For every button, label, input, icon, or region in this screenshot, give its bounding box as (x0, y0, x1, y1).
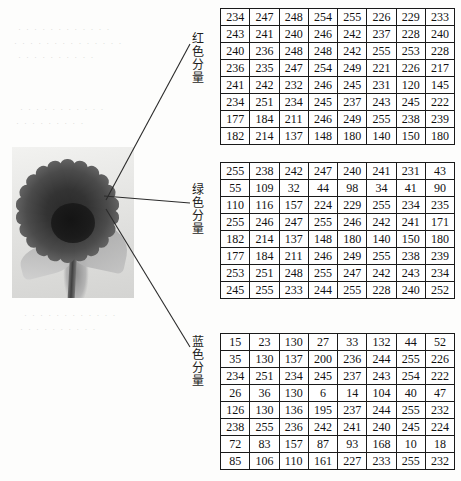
matrix-cell: 233 (279, 282, 308, 299)
matrix-cell: 255 (250, 282, 279, 299)
matrix-cell: 228 (367, 282, 396, 299)
matrix-cell: 237 (338, 94, 367, 111)
matrix-cell: 200 (308, 351, 337, 368)
matrix-cell: 255 (308, 214, 337, 231)
matrix-cell: 222 (425, 94, 454, 111)
matrix-cell: 239 (425, 111, 454, 128)
matrix-cell: 109 (250, 180, 279, 197)
matrix-cell: 248 (279, 43, 308, 60)
ghost-text-line: · · · · · · · · · · · · (24, 310, 117, 319)
matrix-cell: 240 (425, 26, 454, 43)
matrix-cell: 171 (425, 214, 454, 231)
matrix-cell: 23 (250, 334, 279, 351)
matrix-cell: 85 (221, 453, 250, 470)
matrix-cell: 247 (279, 214, 308, 231)
matrix-cell: 232 (279, 77, 308, 94)
matrix-row: 234251234245237243254222 (221, 368, 455, 385)
matrix-cell: 234 (221, 9, 250, 26)
matrix-cell: 10 (396, 436, 425, 453)
matrix-cell: 249 (338, 248, 367, 265)
matrix-row: 243241240246242237228240 (221, 26, 455, 43)
figure-page: · · · · · · · · · · · · · · · · · · · · … (0, 0, 461, 481)
matrix-cell: 180 (425, 231, 454, 248)
matrix-cell: 248 (308, 43, 337, 60)
matrix-cell: 177 (221, 248, 250, 265)
matrix-cell: 245 (221, 282, 250, 299)
matrix-cell: 130 (279, 334, 308, 351)
matrix-cell: 228 (425, 43, 454, 60)
matrix-cell: 150 (396, 231, 425, 248)
matrix-cell: 238 (221, 419, 250, 436)
matrix-cell: 245 (396, 419, 425, 436)
matrix-row: 182214137148180140150180 (221, 231, 455, 248)
matrix-cell: 229 (338, 197, 367, 214)
sunflower-photo (12, 147, 134, 298)
matrix-cell: 36 (250, 385, 279, 402)
matrix-cell: 241 (338, 419, 367, 436)
matrix-cell: 120 (396, 77, 425, 94)
matrix-cell: 242 (250, 77, 279, 94)
matrix-cell: 253 (396, 43, 425, 60)
matrix-cell: 184 (250, 111, 279, 128)
matrix-cell: 236 (221, 60, 250, 77)
blue-component-matrix: 1523130273313244523513013720023624425522… (220, 333, 455, 470)
matrix-row: 177184211246249255238239 (221, 111, 455, 128)
matrix-cell: 52 (425, 334, 454, 351)
matrix-cell: 238 (250, 163, 279, 180)
matrix-cell: 233 (425, 9, 454, 26)
matrix-cell: 254 (308, 9, 337, 26)
ghost-text-line: · · · · · · · · · · (18, 52, 95, 61)
matrix-cell: 253 (221, 265, 250, 282)
matrix-cell: 242 (308, 419, 337, 436)
matrix-cell: 236 (338, 351, 367, 368)
matrix-row: 241242232246245231120145 (221, 77, 455, 94)
matrix-cell: 232 (425, 402, 454, 419)
matrix-cell: 104 (367, 385, 396, 402)
matrix-row: 238255236242241240245224 (221, 419, 455, 436)
red-component-matrix: 2342472482542552262292332432412402462422… (220, 8, 455, 145)
matrix-cell: 110 (221, 197, 250, 214)
green-component-matrix: 2552382422472402412314355109324498344190… (220, 162, 455, 299)
ghost-text-line: · · · · · · · · · · · (20, 104, 105, 113)
matrix-cell: 251 (250, 368, 279, 385)
matrix-row: 236235247254249221226217 (221, 60, 455, 77)
matrix-row: 245255233244255228240252 (221, 282, 455, 299)
matrix-cell: 106 (250, 453, 279, 470)
matrix-cell: 161 (308, 453, 337, 470)
matrix-cell: 35 (221, 351, 250, 368)
matrix-cell: 249 (338, 60, 367, 77)
matrix-cell: 238 (396, 111, 425, 128)
matrix-cell: 255 (338, 282, 367, 299)
matrix-cell: 242 (338, 26, 367, 43)
matrix-cell: 245 (338, 77, 367, 94)
matrix-cell: 240 (396, 282, 425, 299)
matrix-cell: 242 (279, 163, 308, 180)
label-red-component: 红 色 分 量 (190, 33, 206, 85)
matrix-cell: 136 (279, 402, 308, 419)
matrix-cell: 214 (250, 128, 279, 145)
matrix-cell: 226 (367, 9, 396, 26)
matrix-row: 110116157224229255234235 (221, 197, 455, 214)
matrix-cell: 247 (250, 9, 279, 26)
matrix-cell: 32 (279, 180, 308, 197)
matrix-row: 126130136195237244255232 (221, 402, 455, 419)
matrix-cell: 240 (338, 163, 367, 180)
matrix-cell: 243 (396, 265, 425, 282)
matrix-row: 85106110161227233255232 (221, 453, 455, 470)
matrix-cell: 116 (250, 197, 279, 214)
matrix-cell: 246 (338, 214, 367, 231)
matrix-cell: 233 (367, 453, 396, 470)
matrix-cell: 227 (338, 453, 367, 470)
matrix-cell: 245 (308, 368, 337, 385)
matrix-cell: 246 (308, 26, 337, 43)
matrix-cell: 18 (425, 436, 454, 453)
matrix-cell: 47 (425, 385, 454, 402)
matrix-cell: 83 (250, 436, 279, 453)
matrix-cell: 211 (279, 248, 308, 265)
matrix-cell: 246 (308, 77, 337, 94)
matrix-cell: 245 (396, 94, 425, 111)
matrix-cell: 44 (396, 334, 425, 351)
ghost-text-line: · · · · · · · · · · · · · · (14, 38, 123, 47)
matrix-row: 728315787931681018 (221, 436, 455, 453)
matrix-cell: 242 (338, 43, 367, 60)
